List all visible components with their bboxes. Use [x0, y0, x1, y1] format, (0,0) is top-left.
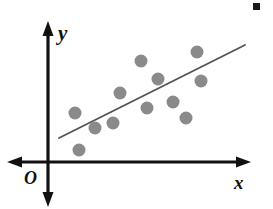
y-axis-up-arrowhead [43, 21, 54, 36]
x-axis-label: x [233, 172, 244, 193]
axes-group [7, 21, 251, 207]
scatter-plot-figure: y x O [0, 0, 273, 209]
regression-trend-line [59, 45, 245, 138]
axis-labels-group: y x O [24, 21, 244, 193]
data-point [114, 87, 127, 100]
data-point [69, 107, 82, 120]
data-point [195, 75, 208, 88]
data-point [89, 122, 102, 135]
data-point [107, 117, 120, 130]
data-point [152, 73, 165, 86]
data-point [73, 144, 86, 157]
data-point [141, 102, 154, 115]
data-point [180, 112, 193, 125]
x-axis-right-arrowhead [236, 157, 251, 168]
y-axis-label: y [55, 21, 68, 45]
data-point [135, 55, 148, 68]
origin-label: O [24, 168, 37, 188]
corner-mark-square [253, 3, 260, 10]
data-point [167, 96, 180, 109]
data-point [191, 46, 204, 59]
trend-line-group [59, 45, 245, 138]
data-points-group [69, 46, 208, 157]
scatter-plot-canvas: y x O [0, 0, 273, 209]
y-axis-down-arrowhead [43, 192, 54, 207]
x-axis-left-arrowhead [7, 157, 22, 168]
corner-annotation-mark [253, 3, 260, 10]
